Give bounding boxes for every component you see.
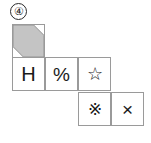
net-cell-letter-h[interactable]: H <box>12 57 45 91</box>
multiplication-sign-icon: × <box>122 100 133 119</box>
net-cell-reference-mark[interactable]: ※ <box>78 92 111 126</box>
letter-h-icon: H <box>21 64 35 84</box>
percent-sign-icon: % <box>53 65 70 84</box>
puzzle-figure: ④ H % ☆ ※ × <box>0 0 151 143</box>
cube-net-grid: H % ☆ ※ × <box>0 0 151 143</box>
net-cell-star[interactable]: ☆ <box>78 57 111 91</box>
net-cell-times[interactable]: × <box>111 92 144 126</box>
reference-mark-icon: ※ <box>88 101 102 118</box>
net-cell-shaded[interactable] <box>12 24 45 58</box>
star-outline-icon: ☆ <box>87 65 103 83</box>
net-cell-percent[interactable]: % <box>45 57 78 91</box>
diagonal-band-shading-icon <box>13 25 44 57</box>
